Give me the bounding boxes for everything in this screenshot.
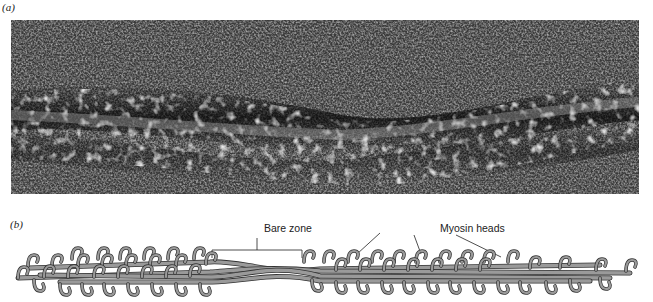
thick-filament-schematic: [0, 220, 653, 302]
bare-zone-bracket: [212, 250, 302, 258]
electron-micrograph: [11, 20, 639, 194]
panel-a-label: (a): [2, 1, 15, 13]
micrograph-texture: [11, 20, 639, 194]
thick-filament-diagram: [0, 220, 653, 302]
